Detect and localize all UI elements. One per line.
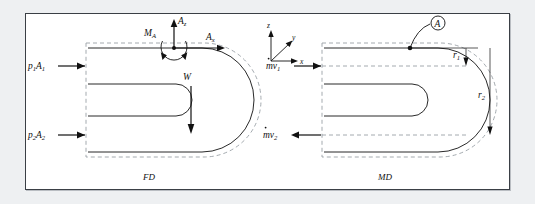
diagram-canvas: p1A1 p2A2 Az Ax MA [26, 14, 508, 188]
fd-moment-arrow-head-left [161, 52, 167, 60]
fd-inlet-pressure-label: p1A1 [27, 61, 45, 72]
fd-az-label: Az [177, 16, 187, 27]
fd-caption: FD [142, 172, 155, 182]
md-inlet-arrow-head [313, 63, 321, 70]
fd-moment-arc: MA [143, 28, 187, 60]
md-outlet-momentum-flux: mv2 [263, 127, 321, 142]
fd-inner-pipe-wall [88, 84, 192, 116]
fd-outlet-pressure-force: p2A2 [27, 130, 85, 141]
axis-y-label: y [291, 33, 296, 42]
coordinate-axes-triad: z x y [266, 21, 304, 66]
md-caption: MD [377, 172, 392, 182]
md-inner-pipe-wall [324, 84, 428, 116]
force-diagram-group: p1A1 p2A2 Az Ax MA [27, 16, 261, 182]
momentum-diagram-group: mv1 mv2 A r1 r2 MD [263, 16, 497, 182]
fd-inlet-pressure-force: p1A1 [27, 61, 85, 72]
fd-inlet-arrow-head [77, 63, 85, 70]
md-r1-label: r1 [453, 50, 460, 61]
md-outlet-momentum-label: mv2 [263, 130, 278, 141]
axis-x-label: x [299, 57, 304, 66]
md-inlet-mdot-overdot [268, 58, 270, 60]
figure-panel: p1A1 p2A2 Az Ax MA [25, 13, 510, 190]
md-point-a-leader [410, 24, 430, 48]
fd-outlet-pressure-label: p2A2 [27, 130, 46, 141]
fd-reaction-horizontal: Ax [174, 32, 225, 51]
md-outlet-mdot-overdot [265, 127, 267, 129]
md-outlet-arrow-head [291, 132, 299, 139]
fd-az-arrow-head [171, 19, 178, 27]
axis-z-label: z [266, 21, 270, 30]
axis-x-head [291, 58, 298, 63]
fd-weight-label: W [183, 72, 192, 82]
md-point-a-marker: A [408, 16, 445, 50]
fd-moment-arrow-head-right [181, 52, 187, 60]
axis-y-line [271, 43, 290, 61]
fd-ax-label: Ax [205, 32, 215, 43]
fd-weight-force: W [183, 72, 194, 134]
md-r2-label: r2 [478, 90, 486, 101]
md-point-a-label: A [434, 19, 441, 29]
fd-moment-label: MA [143, 28, 157, 39]
fd-outlet-arrow-head [77, 132, 85, 139]
fd-outer-pipe-wall [88, 48, 254, 152]
md-inlet-momentum-label: mv1 [266, 61, 280, 72]
md-r1-arrow-head [463, 58, 468, 67]
fd-weight-arrow-head [188, 124, 195, 134]
axis-z-head [268, 30, 273, 37]
md-outer-pipe-wall [324, 48, 490, 152]
